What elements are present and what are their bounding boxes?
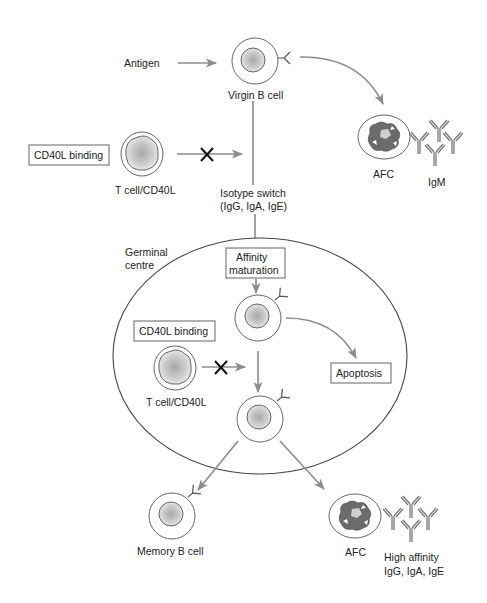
- apoptosis-label: Apoptosis: [336, 367, 382, 379]
- igm-antibodies-icon: [409, 120, 463, 166]
- memory-b-cell: [149, 485, 201, 539]
- germinal-centre-label-1: Germinal: [125, 246, 168, 258]
- afc-cell-top: [358, 115, 410, 159]
- afc-nucleus-icon: [339, 501, 371, 530]
- curve-arrow-to-afc: [300, 57, 383, 104]
- t-cell-top-label: T cell/CD40L: [115, 184, 176, 196]
- affinity-label-1: Affinity: [236, 251, 268, 263]
- high-affinity-label-1: High affinity: [384, 551, 439, 563]
- memory-b-cell-label: Memory B cell: [137, 545, 204, 557]
- high-affinity-antibodies-icon: [383, 496, 438, 542]
- antigen-label: Antigen: [124, 57, 160, 69]
- isotype-switch-label-2: (IgG, IgA, IgE): [220, 200, 287, 212]
- virgin-b-cell: [232, 38, 290, 84]
- afc-top-label: AFC: [373, 168, 394, 180]
- virgin-b-cell-label: Virgin B cell: [228, 89, 283, 101]
- afc-nucleus-icon: [368, 122, 400, 151]
- germinal-centre-label-2: centre: [125, 259, 154, 271]
- afc-cell-bottom: [329, 494, 381, 538]
- isotype-switch-label-1: Isotype switch: [220, 187, 286, 199]
- cd40l-binding-top-label: CD40L binding: [34, 149, 103, 161]
- t-cell-gc: [154, 346, 196, 390]
- igm-label: IgM: [428, 176, 446, 188]
- diagram-canvas: Antigen Virgin B cell AFC IgM CD40L bind…: [0, 0, 487, 603]
- b-cell-receptor-icon: [278, 52, 290, 64]
- t-cell-top: [121, 132, 163, 176]
- affinity-label-2: maturation: [229, 264, 279, 276]
- high-affinity-label-2: IgG, IgA, IgE: [384, 565, 444, 577]
- afc-bottom-label: AFC: [345, 546, 366, 558]
- cd40l-binding-gc-label: CD40L binding: [139, 325, 208, 337]
- t-cell-gc-label: T cell/CD40L: [146, 396, 207, 408]
